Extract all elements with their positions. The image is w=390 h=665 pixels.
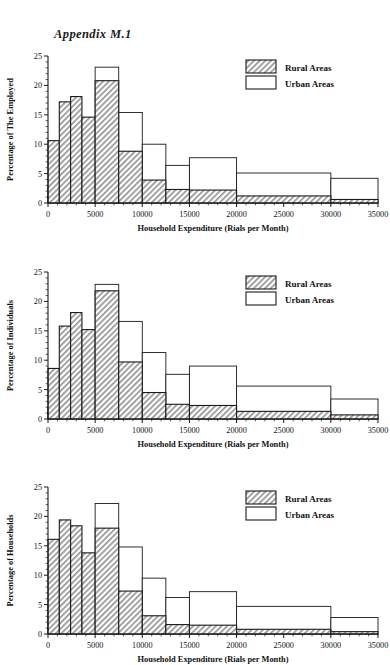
page-title: Appendix M.1 [54,27,132,42]
rural-bar [166,189,190,203]
y-axis-title: Percentage of Individuals [6,299,15,391]
page-root: Appendix M.1 051015202505000100001500020… [0,0,390,665]
x-tick-label: 0 [46,426,50,435]
rural-bar [166,625,190,634]
y-tick-label: 25 [34,483,42,492]
y-tick-label: 15 [34,542,42,551]
x-axis-title: Household Expenditure (Rials per Month) [138,655,289,664]
y-axis-title: Percentage of The Employed [6,78,15,181]
rural-bar [59,326,70,419]
legend-swatch-rural [246,60,276,73]
rural-bar [48,539,59,634]
rural-bar [142,616,166,634]
x-tick-label: 20000 [226,641,246,650]
y-tick-label: 20 [34,297,42,306]
rural-bar [119,151,143,203]
chart-households: 0510152025050001000015000200002500030000… [0,473,390,665]
legend-swatch-urban [246,76,276,89]
y-tick-label: 5 [38,601,42,610]
rural-bar [59,520,70,634]
rural-bar [142,393,166,419]
x-tick-label: 15000 [179,641,199,650]
x-tick-label: 5000 [87,210,103,219]
legend: Rural AreasUrban Areas [246,491,335,520]
legend-swatch-urban [246,507,276,520]
legend-swatch-rural [246,491,276,504]
legend-swatch-urban [246,292,276,305]
rural-bar [331,415,378,419]
x-tick-label: 25000 [273,426,293,435]
rural-bar [189,625,236,634]
rural-bar [71,97,82,203]
x-tick-label: 10000 [132,426,152,435]
chart-individuals: 0510152025050001000015000200002500030000… [0,258,390,463]
y-tick-label: 5 [38,170,42,179]
legend-label-rural: Rural Areas [285,63,332,73]
rural-bar [119,591,143,634]
y-tick-label: 25 [34,52,42,61]
x-tick-label: 0 [46,641,50,650]
x-tick-label: 10000 [132,210,152,219]
rural-bar [82,117,95,203]
legend-label-rural: Rural Areas [285,494,332,504]
x-tick-label: 20000 [226,426,246,435]
rural-bar [119,362,143,419]
y-tick-label: 10 [34,140,42,149]
y-axis-title: Percentage of Households [6,514,15,607]
rural-bar [95,528,119,634]
legend-label-urban: Urban Areas [285,79,335,89]
x-axis-title: Household Expenditure (Rials per Month) [138,440,289,449]
x-tick-label: 35000 [368,210,388,219]
x-tick-label: 30000 [321,641,341,650]
y-tick-label: 20 [34,81,42,90]
rural-bar [142,180,166,203]
rural-bar [166,404,190,419]
rural-bar [82,553,95,634]
rural-bar [95,291,119,419]
y-tick-label: 0 [38,415,42,424]
y-tick-label: 0 [38,630,42,639]
rural-bar [82,330,95,419]
rural-bar [59,102,70,203]
y-tick-label: 5 [38,386,42,395]
legend: Rural AreasUrban Areas [246,60,335,89]
x-tick-label: 15000 [179,210,199,219]
x-tick-label: 20000 [226,210,246,219]
y-tick-label: 15 [34,111,42,120]
legend-label-urban: Urban Areas [285,295,335,305]
rural-bar [71,313,82,419]
y-tick-label: 25 [34,268,42,277]
x-tick-label: 30000 [321,426,341,435]
rural-bar [71,526,82,634]
legend-label-urban: Urban Areas [285,510,335,520]
x-tick-label: 0 [46,210,50,219]
y-tick-label: 10 [34,356,42,365]
legend-swatch-rural [246,276,276,289]
rural-bar [95,81,119,203]
x-tick-label: 35000 [368,641,388,650]
x-tick-label: 25000 [273,641,293,650]
rural-bar [48,368,59,419]
legend-label-rural: Rural Areas [285,279,332,289]
x-tick-label: 5000 [87,426,103,435]
y-tick-label: 15 [34,327,42,336]
y-tick-label: 0 [38,199,42,208]
rural-bar [189,190,236,203]
rural-bar [237,629,331,634]
x-tick-label: 15000 [179,426,199,435]
x-tick-label: 25000 [273,210,293,219]
rural-bar [48,141,59,203]
x-axis-title: Household Expenditure (Rials per Month) [138,224,289,233]
rural-bar [237,411,331,419]
x-tick-label: 10000 [132,641,152,650]
y-tick-label: 20 [34,512,42,521]
chart-employed: 0510152025050001000015000200002500030000… [0,42,390,247]
x-tick-label: 5000 [87,641,103,650]
y-tick-label: 10 [34,571,42,580]
rural-bar [189,405,236,419]
legend: Rural AreasUrban Areas [246,276,335,305]
x-tick-label: 35000 [368,426,388,435]
rural-bar [237,196,331,203]
x-tick-label: 30000 [321,210,341,219]
